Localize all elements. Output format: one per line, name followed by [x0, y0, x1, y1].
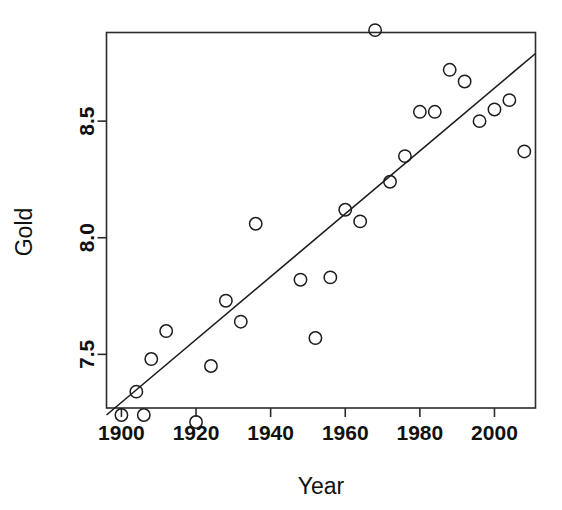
data-point-marker	[503, 94, 515, 106]
data-point-marker	[444, 64, 456, 76]
x-tick-label: 1960	[322, 421, 369, 444]
y-tick-label: 7.5	[75, 339, 98, 369]
data-points-group	[115, 24, 530, 428]
x-axis-tick-labels: 190019201940196019802000	[98, 421, 518, 444]
data-point-marker	[458, 75, 470, 87]
x-tick-label: 1920	[173, 421, 220, 444]
data-point-marker	[160, 325, 172, 337]
data-point-marker	[384, 176, 396, 188]
data-point-marker	[250, 218, 262, 230]
y-tick-label: 8.5	[75, 106, 98, 136]
data-point-marker	[309, 332, 321, 344]
y-axis-tick-labels: 7.58.08.5	[75, 106, 98, 369]
x-tick-label: 1980	[396, 421, 443, 444]
x-tick-label: 1940	[247, 421, 294, 444]
y-axis-title: Gold	[11, 208, 37, 257]
data-point-marker	[145, 353, 157, 365]
y-tick-label: 8.0	[75, 223, 98, 252]
data-point-marker	[220, 295, 232, 307]
data-point-marker	[235, 316, 247, 328]
data-point-marker	[324, 271, 336, 283]
data-point-marker	[473, 115, 485, 127]
data-point-marker	[354, 215, 366, 227]
y-axis-ticks	[98, 121, 107, 354]
data-point-marker	[130, 385, 142, 397]
x-axis-ticks	[121, 408, 494, 417]
x-axis-title: Year	[298, 473, 345, 499]
data-point-marker	[488, 103, 500, 115]
x-tick-label: 2000	[471, 421, 518, 444]
data-point-marker	[294, 274, 306, 286]
plot-frame-box	[107, 33, 536, 409]
data-point-marker	[429, 106, 441, 118]
data-point-marker	[518, 145, 530, 157]
data-point-marker	[414, 106, 426, 118]
scatter-plot-figure: 190019201940196019802000 7.58.08.5 Year …	[0, 0, 562, 510]
regression-fit-line	[107, 53, 536, 415]
x-tick-label: 1900	[98, 421, 145, 444]
data-point-marker	[138, 409, 150, 421]
data-point-marker	[369, 24, 381, 36]
data-point-marker	[205, 360, 217, 372]
data-point-marker	[399, 150, 411, 162]
chart-canvas: 190019201940196019802000 7.58.08.5 Year …	[0, 0, 562, 510]
